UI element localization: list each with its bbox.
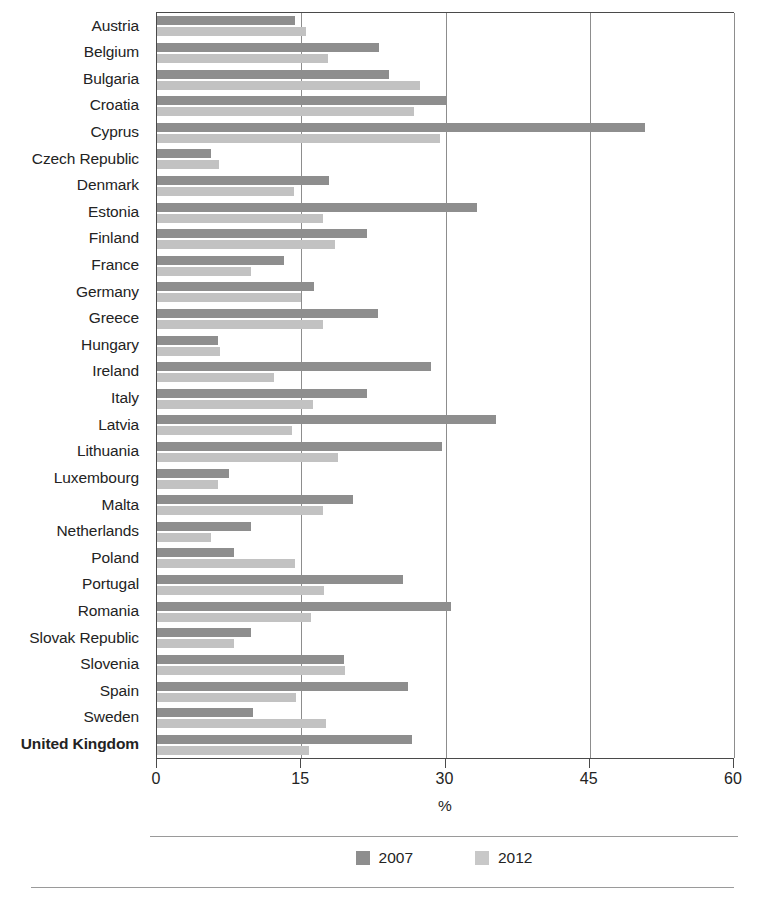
bar-2012 — [157, 400, 313, 409]
bar-row — [157, 279, 734, 306]
bar-2007 — [157, 495, 353, 504]
bar-2007 — [157, 708, 253, 717]
bar-2012 — [157, 613, 311, 622]
bar-2007 — [157, 16, 295, 25]
bar-rows — [157, 13, 734, 758]
bar-2007 — [157, 602, 451, 611]
bar-2012 — [157, 240, 335, 249]
bar-2007 — [157, 362, 431, 371]
bar-2012 — [157, 746, 309, 755]
bar-2012 — [157, 719, 326, 728]
bar-2012 — [157, 347, 220, 356]
bar-2012 — [157, 54, 328, 63]
category-label: Romania — [0, 597, 146, 624]
legend-item-2012[interactable]: 2012 — [475, 849, 532, 867]
bar-2007 — [157, 655, 344, 664]
x-axis-title: % — [156, 797, 734, 815]
bar-2012 — [157, 666, 345, 675]
category-label: Slovenia — [0, 651, 146, 678]
bar-2007 — [157, 309, 378, 318]
bar-2012 — [157, 453, 338, 462]
bar-2007 — [157, 123, 645, 132]
bar-row — [157, 40, 734, 67]
category-label: Malta — [0, 491, 146, 518]
bar-row — [157, 386, 734, 413]
category-label: Cyprus — [0, 118, 146, 145]
legend-label: 2007 — [379, 849, 413, 867]
bar-row — [157, 731, 734, 758]
bar-row — [157, 545, 734, 572]
category-label: Poland — [0, 544, 146, 571]
category-label: Sweden — [0, 704, 146, 731]
bar-2007 — [157, 575, 403, 584]
x-tick — [733, 759, 734, 768]
bar-row — [157, 13, 734, 40]
bar-row — [157, 93, 734, 120]
bar-2007 — [157, 415, 496, 424]
bar-row — [157, 66, 734, 93]
category-label: Slovak Republic — [0, 624, 146, 651]
bar-2007 — [157, 96, 446, 105]
bar-chart: AustriaBelgiumBulgariaCroatiaCyprusCzech… — [0, 0, 763, 897]
x-tick — [300, 759, 301, 768]
bar-row — [157, 439, 734, 466]
bar-row — [157, 519, 734, 546]
bar-2007 — [157, 176, 329, 185]
category-label: Netherlands — [0, 518, 146, 545]
category-label: Portugal — [0, 571, 146, 598]
bar-2007 — [157, 389, 367, 398]
x-tick-label: 30 — [436, 770, 454, 788]
bar-row — [157, 598, 734, 625]
bar-2012 — [157, 506, 323, 515]
x-tick — [156, 759, 157, 768]
bar-2012 — [157, 693, 296, 702]
category-label: France — [0, 251, 146, 278]
bar-2007 — [157, 469, 229, 478]
legend-divider-top — [150, 836, 738, 837]
bar-row — [157, 492, 734, 519]
bar-2012 — [157, 293, 301, 302]
category-label: Croatia — [0, 92, 146, 119]
bar-row — [157, 412, 734, 439]
bar-row — [157, 625, 734, 652]
bar-row — [157, 359, 734, 386]
x-tick — [589, 759, 590, 768]
bar-2012 — [157, 187, 294, 196]
legend-item-2007[interactable]: 2007 — [356, 849, 413, 867]
bar-2012 — [157, 27, 306, 36]
category-axis-labels: AustriaBelgiumBulgariaCroatiaCyprusCzech… — [0, 12, 146, 757]
bar-2012 — [157, 586, 324, 595]
bar-2012 — [157, 320, 323, 329]
bar-2007 — [157, 149, 211, 158]
bar-row — [157, 306, 734, 333]
bar-2007 — [157, 70, 389, 79]
bar-2007 — [157, 229, 367, 238]
x-tick-label: 0 — [152, 770, 161, 788]
legend: 20072012 — [150, 845, 738, 871]
x-tick-label: 15 — [291, 770, 309, 788]
category-label: Czech Republic — [0, 145, 146, 172]
bar-2012 — [157, 81, 420, 90]
bar-row — [157, 252, 734, 279]
bar-2012 — [157, 373, 274, 382]
bar-2012 — [157, 559, 295, 568]
bar-row — [157, 652, 734, 679]
category-label: Finland — [0, 225, 146, 252]
bar-2012 — [157, 214, 323, 223]
category-label: Hungary — [0, 331, 146, 358]
category-label: Spain — [0, 677, 146, 704]
bar-2007 — [157, 682, 408, 691]
bar-2007 — [157, 628, 251, 637]
bar-row — [157, 332, 734, 359]
category-label: Austria — [0, 12, 146, 39]
category-label: Ireland — [0, 358, 146, 385]
bar-2012 — [157, 134, 440, 143]
bar-row — [157, 173, 734, 200]
bar-2007 — [157, 522, 251, 531]
bar-row — [157, 572, 734, 599]
category-label: Estonia — [0, 198, 146, 225]
bar-2012 — [157, 267, 251, 276]
plot-area — [156, 12, 734, 759]
bar-2007 — [157, 442, 442, 451]
category-label: Latvia — [0, 411, 146, 438]
